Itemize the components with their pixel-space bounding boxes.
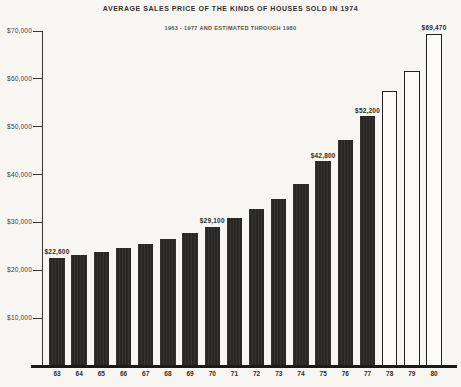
x-axis-label-72: 72 <box>246 370 268 377</box>
x-axis-label-67: 67 <box>135 370 157 377</box>
x-axis-label-70: 70 <box>201 370 223 377</box>
x-axis-label-68: 68 <box>157 370 179 377</box>
x-axis-label-75: 75 <box>312 370 334 377</box>
x-axis-label-71: 71 <box>223 370 245 377</box>
bar-76 <box>338 140 353 366</box>
bar-71 <box>227 218 242 366</box>
bar-75 <box>315 161 330 366</box>
x-axis-label-64: 64 <box>68 370 90 377</box>
y-axis-tick-label: $70,000 <box>0 27 32 34</box>
y-axis-tick-label: $40,000 <box>0 171 32 178</box>
y-axis-tick <box>33 126 42 127</box>
chart-page: AVERAGE SALES PRICE OF THE KINDS OF HOUS… <box>0 0 461 387</box>
y-axis-tick <box>33 174 42 175</box>
y-axis-tick <box>33 318 42 319</box>
x-axis-baseline <box>31 365 457 368</box>
x-axis-label-80: 80 <box>423 370 445 377</box>
bar-66 <box>116 248 131 366</box>
y-axis-tick <box>33 222 42 223</box>
x-axis-label-65: 65 <box>90 370 112 377</box>
bar-68 <box>160 239 175 366</box>
chart-subtitle: 1963 - 1977 AND ESTIMATED THROUGH 1980 <box>0 25 461 31</box>
x-axis-label-77: 77 <box>357 370 379 377</box>
chart-title: AVERAGE SALES PRICE OF THE KINDS OF HOUS… <box>0 5 461 12</box>
x-axis-label-76: 76 <box>334 370 356 377</box>
y-axis-tick <box>33 78 42 79</box>
x-axis-label-63: 63 <box>46 370 68 377</box>
bar-63 <box>49 258 64 366</box>
bar-value-label: $52,200 <box>346 107 390 114</box>
x-axis-label-66: 66 <box>113 370 135 377</box>
bar-64 <box>71 255 86 366</box>
x-axis-label-74: 74 <box>290 370 312 377</box>
x-axis-label-73: 73 <box>268 370 290 377</box>
bar-79 <box>404 71 419 366</box>
y-axis-line <box>42 31 43 366</box>
x-axis-label-69: 69 <box>179 370 201 377</box>
y-axis-tick-label: $20,000 <box>0 266 32 273</box>
y-axis-tick <box>33 270 42 271</box>
bar-77 <box>360 116 375 366</box>
y-axis-tick-label: $10,000 <box>0 314 32 321</box>
bar-80 <box>426 34 441 366</box>
bar-78 <box>382 91 397 366</box>
y-axis-tick-label: $30,000 <box>0 218 32 225</box>
y-axis-tick-label: $50,000 <box>0 123 32 130</box>
bar-70 <box>205 227 220 366</box>
bar-value-label: $42,800 <box>301 152 345 159</box>
bar-value-label: $22,600 <box>35 248 79 255</box>
bar-67 <box>138 244 153 366</box>
bar-65 <box>94 252 109 366</box>
y-axis-tick-label: $60,000 <box>0 75 32 82</box>
bar-value-label: $69,470 <box>412 24 456 31</box>
bar-73 <box>271 199 286 367</box>
y-axis-tick <box>33 31 42 32</box>
bar-69 <box>182 233 197 366</box>
x-axis-label-79: 79 <box>401 370 423 377</box>
bar-72 <box>249 209 264 366</box>
x-axis-label-78: 78 <box>379 370 401 377</box>
bar-value-label: $29,100 <box>190 217 234 224</box>
bar-74 <box>293 184 308 366</box>
